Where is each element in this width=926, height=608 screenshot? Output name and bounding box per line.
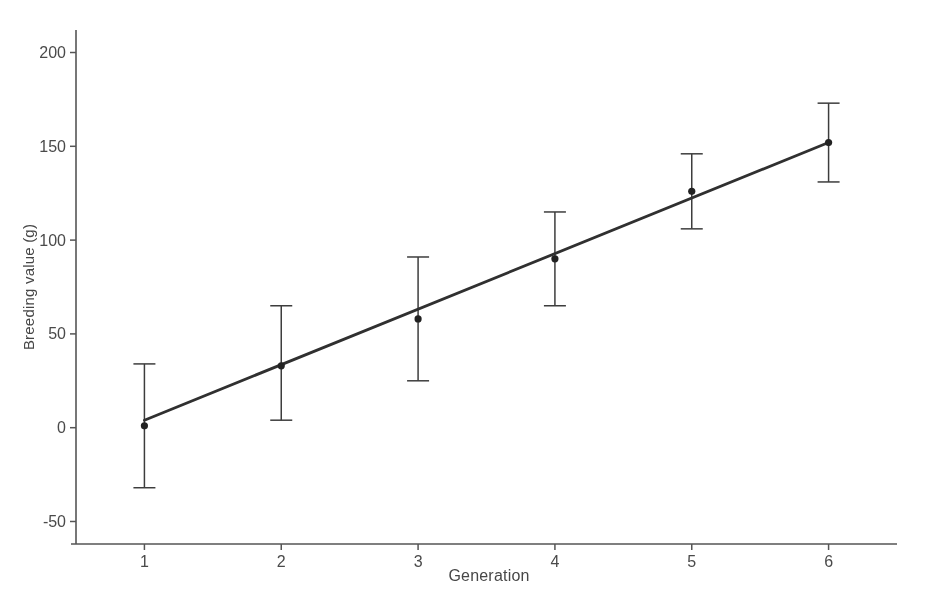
y-tick-label: 100 — [39, 232, 66, 249]
data-point — [278, 362, 285, 369]
data-point — [414, 315, 421, 322]
x-tick-label: 4 — [550, 553, 559, 570]
data-point — [551, 255, 558, 262]
x-tick-label: 5 — [687, 553, 696, 570]
x-tick-label: 3 — [414, 553, 423, 570]
x-tick-label: 2 — [277, 553, 286, 570]
y-tick-label: 200 — [39, 44, 66, 61]
y-tick-label: 150 — [39, 138, 66, 155]
trend-line — [144, 143, 828, 421]
x-axis-title: Generation — [448, 567, 529, 585]
plot-canvas: -50050100150200123456 — [0, 0, 926, 608]
y-axis-title: Breeding value (g) — [20, 224, 37, 350]
data-point — [688, 188, 695, 195]
y-tick-label: 50 — [48, 325, 66, 342]
data-point — [825, 139, 832, 146]
y-tick-label: -50 — [43, 513, 66, 530]
data-point — [141, 422, 148, 429]
y-tick-label: 0 — [57, 419, 66, 436]
x-tick-label: 6 — [824, 553, 833, 570]
breeding-value-chart: -50050100150200123456 Generation Breedin… — [0, 0, 926, 608]
x-tick-label: 1 — [140, 553, 149, 570]
